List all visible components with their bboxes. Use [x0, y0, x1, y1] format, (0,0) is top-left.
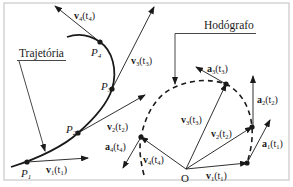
- hodo-v1-vector: [186, 163, 247, 169]
- trajectory-callout-arrow: [19, 61, 45, 151]
- label-a4: a4(t4): [105, 141, 126, 153]
- label-v4: v4(t4): [74, 10, 95, 22]
- point-p4: [97, 39, 102, 44]
- hodo-point-3: [223, 81, 228, 86]
- label-p4: P4: [90, 46, 102, 60]
- origin-label: O: [181, 172, 189, 184]
- v3-vector: [112, 7, 154, 89]
- hodo-point-2: [249, 124, 254, 129]
- label-hodo-v1: v1(t1): [206, 170, 227, 182]
- label-p3: P3: [100, 80, 112, 94]
- label-hodo-v4: v4(t4): [143, 154, 164, 166]
- label-v1: v1(t1): [46, 164, 67, 176]
- diagram-canvas: P1 P2 P3 P4 v1(t1) v2(t2) v3(t3) v4(t4) …: [0, 0, 293, 187]
- label-v3: v3(t3): [131, 55, 152, 67]
- trajectory-hodograph-diagram: P1 P2 P3 P4 v1(t1) v2(t2) v3(t3) v4(t4) …: [0, 0, 293, 187]
- point-p1: [24, 159, 29, 164]
- trajectory-label: Trajetória: [19, 47, 64, 60]
- label-hodo-v2: v2(t2): [211, 128, 232, 140]
- label-a2: a2(t2): [257, 94, 278, 106]
- hodo-point-1: [244, 160, 249, 165]
- hodograph-label: Hodógrafo: [204, 19, 254, 32]
- label-a3: a3(t3): [207, 63, 228, 75]
- label-v2: v2(t2): [107, 121, 128, 133]
- label-a1: a1(t1): [262, 138, 283, 150]
- label-p1: P1: [20, 167, 31, 181]
- trajectory: P1 P2 P3 P4 v1(t1) v2(t2) v3(t3) v4(t4) …: [11, 6, 154, 181]
- hodograph: O v1(t1) v2(t2) v3(t3) v4(t4) a1(t1) a2(…: [105, 19, 283, 184]
- hodo-point-4: [138, 134, 143, 139]
- label-p2: P2: [65, 123, 77, 137]
- label-hodo-v3: v3(t3): [181, 114, 202, 126]
